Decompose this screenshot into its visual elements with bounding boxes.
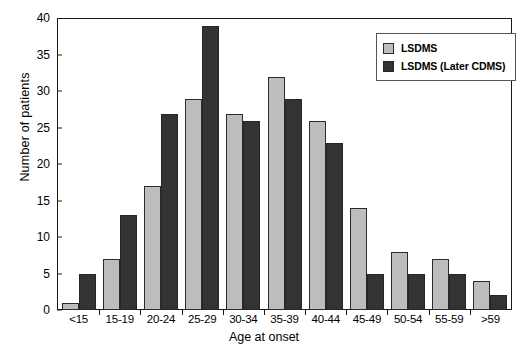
bar-lsdms-later-cdms [285, 99, 302, 310]
bar-chart: Number of patients 0510152025303540 <151… [0, 0, 528, 349]
bar-lsdms-later-cdms [326, 143, 343, 310]
bar-lsdms-later-cdms [120, 215, 137, 310]
x-axis-tick-label: >59 [470, 313, 511, 325]
bar-lsdms [473, 281, 490, 310]
x-axis-title: Age at onset [0, 330, 528, 344]
x-axis-labels: <1515-1920-2425-2930-3435-3940-4445-4950… [58, 313, 511, 325]
x-axis-tick-label: 55-59 [429, 313, 470, 325]
bar-group [140, 19, 181, 310]
bar-lsdms [144, 186, 161, 310]
y-axis-tick-label: 5 [0, 267, 50, 281]
bar-lsdms-later-cdms [243, 121, 260, 310]
bar-lsdms [432, 259, 449, 310]
legend-swatch-icon [383, 61, 394, 72]
bar-lsdms [226, 114, 243, 310]
bar-lsdms [62, 303, 79, 310]
x-axis-tick-label: 45-49 [346, 313, 387, 325]
legend: LSDMSLSDMS (Later CDMS) [376, 33, 516, 81]
bar-lsdms [185, 99, 202, 310]
bar-lsdms-later-cdms [367, 274, 384, 310]
bar-lsdms [391, 252, 408, 310]
y-axis-tick-label: 30 [0, 84, 50, 98]
legend-swatch-icon [383, 43, 394, 54]
bar-group [223, 19, 264, 310]
x-axis-tick-label: 50-54 [388, 313, 429, 325]
bar-group [264, 19, 305, 310]
bar-lsdms-later-cdms [79, 274, 96, 310]
bar-group [182, 19, 223, 310]
x-axis-tick-label: <15 [58, 313, 99, 325]
bar-lsdms [103, 259, 120, 310]
y-axis-tick-label: 25 [0, 121, 50, 135]
bar-group [305, 19, 346, 310]
legend-label: LSDMS [401, 42, 437, 54]
bar-lsdms-later-cdms [202, 26, 219, 310]
x-axis-tick-label: 30-34 [223, 313, 264, 325]
legend-item: LSDMS [383, 42, 509, 54]
bar-group [99, 19, 140, 310]
bar-lsdms-later-cdms [161, 114, 178, 310]
legend-item: LSDMS (Later CDMS) [383, 60, 509, 72]
bar-lsdms-later-cdms [449, 274, 466, 310]
x-axis-tick-label: 25-29 [182, 313, 223, 325]
y-axis-tick-label: 35 [0, 48, 50, 62]
y-axis-tick-label: 40 [0, 11, 50, 25]
bar-group [58, 19, 99, 310]
bar-lsdms [309, 121, 326, 310]
y-axis-tick-label: 10 [0, 230, 50, 244]
bar-lsdms [350, 208, 367, 310]
y-axis-tick-label: 15 [0, 194, 50, 208]
legend-label: LSDMS (Later CDMS) [401, 60, 505, 72]
x-axis-tick-label: 15-19 [99, 313, 140, 325]
x-axis-tick-label: 35-39 [264, 313, 305, 325]
y-axis-tick-label: 20 [0, 157, 50, 171]
bar-lsdms-later-cdms [408, 274, 425, 310]
bar-lsdms [268, 77, 285, 310]
x-axis-tick-label: 20-24 [140, 313, 181, 325]
y-axis-tick-label: 0 [0, 303, 50, 317]
x-axis-tick-label: 40-44 [305, 313, 346, 325]
bar-lsdms-later-cdms [490, 295, 507, 310]
